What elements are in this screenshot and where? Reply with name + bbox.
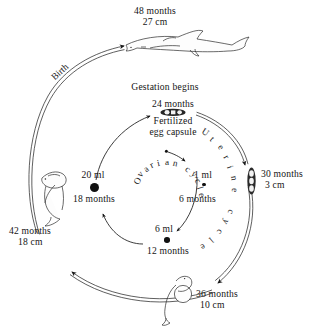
ovum-6ml-volume-label: 6 ml — [155, 224, 173, 235]
embryo-36-size-label: 10 cm — [200, 300, 225, 311]
adult-shark-icon — [126, 30, 249, 56]
pup-42-size-label: 18 cm — [18, 237, 43, 248]
egg-case-30-size-label: 3 cm — [265, 180, 285, 191]
ovum-20ml-dot — [90, 183, 99, 192]
ovum-20ml-volume-label: 20 ml — [65, 170, 121, 181]
outer-birth-arc — [29, 46, 125, 234]
embryo-with-yolk-sac-icon — [162, 276, 192, 325]
outer-bottom-arc — [70, 272, 213, 302]
ovum-6ml-dot — [164, 237, 170, 243]
ovum-6ml-months-label: 12 months — [137, 246, 199, 257]
gestation-begins-label: Gestation begins — [110, 82, 220, 93]
fertilized-months-label: 24 months — [128, 99, 218, 110]
ovum-20ml-months-label: 18 months — [60, 194, 128, 205]
ovum-origin-dot — [165, 150, 168, 153]
egg-case-embryos-icon — [247, 168, 255, 195]
adult-size-label: 27 cm — [110, 17, 200, 28]
